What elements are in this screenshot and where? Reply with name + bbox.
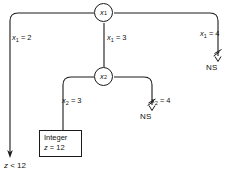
outcome-z-rel: < 12 — [8, 161, 26, 170]
edge-line-x2-eq-4 — [114, 77, 152, 105]
outcome-label-z-lt-12: z < 12 — [4, 162, 26, 170]
leaf-box-line-integer: Integer — [44, 133, 77, 143]
edge-label-x2-eq-3: x2 = 3 — [62, 97, 82, 106]
leaf-box-z-rel: = 12 — [48, 143, 65, 152]
arrowhead-x1-eq-4 — [215, 57, 221, 62]
edge-label-x1-eq-4-rel: = 4 — [207, 29, 220, 38]
decision-tree-diagram: x1 x2 x1 = 2 x1 = 3 x1 = 4 x2 = 3 x2 = 4… — [0, 0, 237, 180]
edge-label-x1-eq-2: x1 = 2 — [12, 34, 32, 43]
edge-label-x1-eq-2-rel: = 2 — [19, 33, 32, 42]
edge-label-x2-eq-3-rel: = 3 — [69, 96, 82, 105]
node-x2-subscript: 2 — [104, 74, 107, 80]
arrowhead-x2-eq-4 — [149, 106, 155, 111]
branch-lines-canvas — [0, 0, 237, 180]
edge-label-x2-eq-4-rel: = 4 — [158, 96, 171, 105]
decision-node-x2[interactable]: x2 — [94, 67, 113, 86]
edge-label-x1-eq-3: x1 = 3 — [107, 34, 127, 43]
leaf-box-line-z-value: z = 12 — [44, 143, 77, 153]
decision-node-x1[interactable]: x1 — [94, 3, 113, 22]
leaf-box-integer[interactable]: Integer z = 12 — [39, 130, 82, 157]
terminal-ns-middle: NS — [140, 113, 152, 121]
node-x1-subscript: 1 — [104, 10, 107, 16]
edge-label-x2-eq-4: x2 = 4 — [151, 97, 171, 106]
edge-label-x1-eq-4: x1 = 4 — [200, 30, 220, 39]
terminal-ns-right: NS — [206, 64, 218, 72]
edge-label-x1-eq-3-rel: = 3 — [114, 33, 127, 42]
